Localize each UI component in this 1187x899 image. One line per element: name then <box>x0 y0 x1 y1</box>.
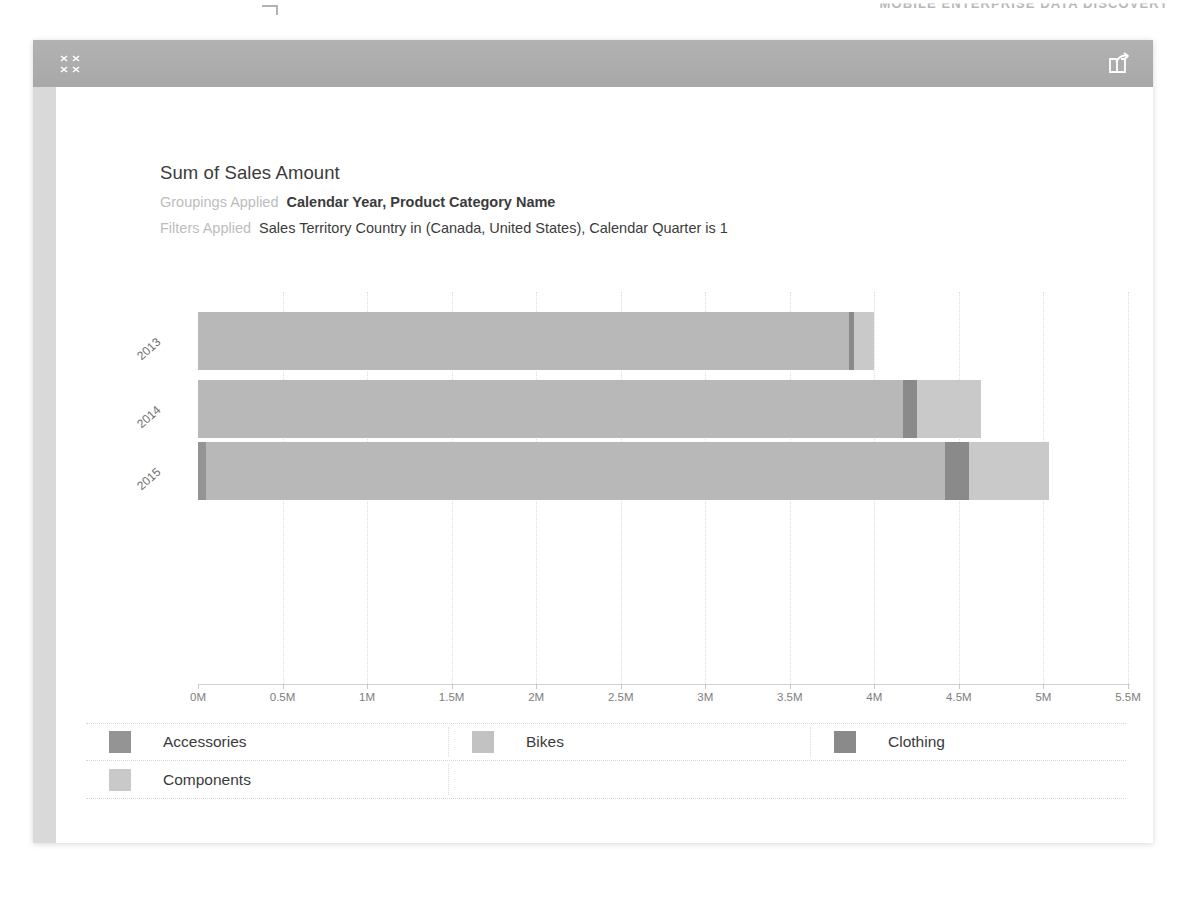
x-axis-tick <box>621 684 622 689</box>
bar-row[interactable] <box>198 442 1128 500</box>
x-axis-tick-label: 0.5M <box>270 691 296 703</box>
legend-swatch-accessories <box>109 731 131 753</box>
legend-label-clothing: Clothing <box>888 733 945 751</box>
page-top-banner-text: MOBILE ENTERPRISE DATA DISCOVERY <box>880 0 1169 11</box>
content-area: Sum of Sales Amount Groupings Applied Ca… <box>56 87 1153 843</box>
legend-item-components[interactable]: Components <box>109 761 251 799</box>
plot-area <box>198 292 1128 684</box>
legend-label-bikes: Bikes <box>526 733 564 751</box>
bar-segment-accessories[interactable] <box>198 442 206 500</box>
stacked-bar-chart: 0M0.5M1M1.5M2M2.5M3M3.5M4M4.5M5M5.5M 201… <box>160 292 1120 712</box>
x-axis-tick <box>367 684 368 689</box>
legend-label-components: Components <box>163 771 251 789</box>
stray-scan-mark <box>262 5 278 15</box>
x-axis-tick-label: 4M <box>866 691 882 703</box>
x-axis-tick-label: 3M <box>697 691 713 703</box>
x-axis-tick-label: 3.5M <box>777 691 803 703</box>
window-titlebar <box>33 40 1153 87</box>
legend-row: Components <box>86 761 1126 799</box>
bar-segment-clothing[interactable] <box>903 380 917 438</box>
legend-row: Accessories Bikes Clothing <box>86 723 1126 761</box>
legend-swatch-bikes <box>472 731 494 753</box>
category-label-2015: 2015 <box>134 465 163 493</box>
x-axis-tick-label: 2.5M <box>608 691 634 703</box>
x-axis-tick <box>790 684 791 689</box>
legend-label-accessories: Accessories <box>163 733 247 751</box>
x-axis-tick <box>705 684 706 689</box>
legend-item-accessories[interactable]: Accessories <box>109 723 247 761</box>
share-export-icon[interactable] <box>1107 52 1131 76</box>
page-top-banner: MOBILE ENTERPRISE DATA DISCOVERY <box>0 0 1187 16</box>
bar-segment-components[interactable] <box>969 442 1048 500</box>
x-axis-tick-label: 5.5M <box>1115 691 1141 703</box>
bar-row[interactable] <box>198 380 1128 438</box>
x-axis-line <box>198 684 1130 685</box>
legend-item-clothing[interactable]: Clothing <box>834 723 945 761</box>
app-window: Sum of Sales Amount Groupings Applied Ca… <box>33 40 1153 843</box>
groupings-value: Calendar Year, Product Category Name <box>287 194 556 210</box>
filters-applied: Filters Applied Sales Territory Country … <box>160 220 728 236</box>
x-axis-tick <box>198 684 199 689</box>
bar-segment-components[interactable] <box>854 312 874 370</box>
category-label-2014: 2014 <box>134 403 163 431</box>
x-axis-tick <box>874 684 875 689</box>
x-axis-tick <box>536 684 537 689</box>
collapse-arrows-icon[interactable] <box>59 54 81 74</box>
bar-segment-components[interactable] <box>917 380 981 438</box>
category-label-2013: 2013 <box>134 335 163 363</box>
bar-segment-clothing[interactable] <box>945 442 969 500</box>
x-axis-tick-label: 4.5M <box>946 691 972 703</box>
x-axis-tick-label: 5M <box>1035 691 1051 703</box>
chart-legend: Accessories Bikes Clothing Components <box>86 723 1126 799</box>
bar-segment-bikes[interactable] <box>206 442 945 500</box>
x-axis-tick <box>959 684 960 689</box>
legend-swatch-clothing <box>834 731 856 753</box>
groupings-label: Groupings Applied <box>160 194 279 210</box>
gridline <box>1128 292 1129 684</box>
x-axis-tick-label: 2M <box>528 691 544 703</box>
legend-item-bikes[interactable]: Bikes <box>472 723 564 761</box>
filters-value: Sales Territory Country in (Canada, Unit… <box>259 220 728 236</box>
bar-segment-bikes[interactable] <box>198 380 903 438</box>
x-axis-tick <box>283 684 284 689</box>
page-title: Sum of Sales Amount <box>160 162 340 184</box>
x-axis-tick <box>1128 684 1129 689</box>
x-axis-tick-label: 1.5M <box>439 691 465 703</box>
x-axis-tick <box>1043 684 1044 689</box>
x-axis-tick-label: 1M <box>359 691 375 703</box>
bar-row[interactable] <box>198 312 1128 370</box>
filters-label: Filters Applied <box>160 220 251 236</box>
x-axis-tick-label: 0M <box>190 691 206 703</box>
groupings-applied: Groupings Applied Calendar Year, Product… <box>160 194 555 210</box>
left-rail <box>33 87 56 843</box>
x-axis-tick <box>452 684 453 689</box>
legend-swatch-components <box>109 769 131 791</box>
bar-segment-bikes[interactable] <box>198 312 849 370</box>
